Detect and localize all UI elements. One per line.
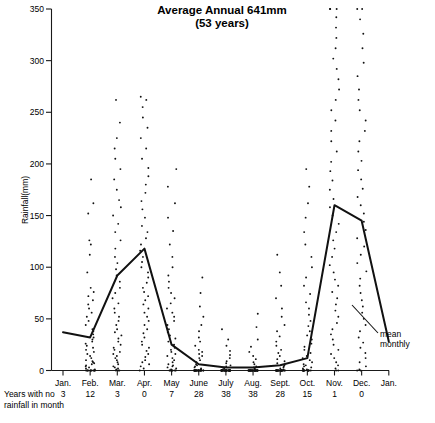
scatter-point <box>309 359 311 361</box>
scatter-point <box>194 370 196 372</box>
scatter-point <box>335 37 337 39</box>
scatter-point <box>86 353 88 355</box>
scatter-point <box>357 151 359 153</box>
scatter-point <box>88 320 90 322</box>
scatter-point <box>225 370 227 372</box>
scatter-point <box>275 341 277 343</box>
y-axis-ticks: 050100150200250300350 <box>30 4 52 376</box>
scatter-point <box>250 346 252 348</box>
x-tick-label: July <box>218 378 234 388</box>
scatter-point <box>199 341 201 343</box>
scatter-point <box>174 338 176 340</box>
scatter-point <box>144 217 146 219</box>
scatter-point <box>361 312 363 314</box>
scatter-point <box>175 367 177 369</box>
scatter-point <box>91 341 93 343</box>
y-tick-label: 100 <box>30 262 44 272</box>
scatter-point <box>170 292 172 294</box>
scatter-point <box>86 370 88 372</box>
scatter-point <box>86 271 88 273</box>
scatter-point <box>90 287 92 289</box>
scatter-point <box>284 360 286 362</box>
scatter-point <box>140 365 142 367</box>
scatter-point <box>365 270 367 272</box>
scatter-point <box>308 308 310 310</box>
scatter-point <box>141 200 143 202</box>
scatter-point <box>330 140 332 142</box>
scatter-point <box>329 170 331 172</box>
x-tick-label: June <box>190 378 209 388</box>
scatter-point <box>363 62 365 64</box>
scatter-point <box>141 158 143 160</box>
footer-value: 38 <box>248 389 258 399</box>
scatter-point <box>167 341 169 343</box>
scatter-point <box>142 106 144 108</box>
scatter-point <box>167 363 169 365</box>
scatter-point <box>118 199 120 201</box>
scatter-point <box>172 364 174 366</box>
scatter-point <box>114 158 116 160</box>
scatter-point <box>116 189 118 191</box>
scatter-point <box>115 369 117 371</box>
scatter-point <box>305 168 307 170</box>
scatter-point <box>114 248 116 250</box>
scatter-point <box>116 328 118 330</box>
scatter-point <box>276 330 278 332</box>
scatter-point <box>275 297 277 299</box>
scatter-point <box>148 320 150 322</box>
x-tick-label: Aug. <box>244 378 262 388</box>
scatter-point <box>198 370 200 372</box>
scatter-point <box>200 367 202 369</box>
scatter-point <box>303 365 305 367</box>
scatter-point <box>337 349 339 351</box>
scatter-point <box>168 287 170 289</box>
scatter-point <box>198 353 200 355</box>
scatter-point <box>174 353 176 355</box>
x-tick-label: Sept. <box>270 378 290 388</box>
scatter-point <box>252 355 254 357</box>
scatter-point <box>145 184 147 186</box>
scatter-point <box>92 299 94 301</box>
scatter-point <box>230 364 232 366</box>
scatter-point <box>88 366 90 368</box>
scatter-point <box>275 345 277 347</box>
scatter-point <box>141 341 143 343</box>
scatter-point <box>141 361 143 363</box>
scatter-point <box>276 370 278 372</box>
y-tick-label: 250 <box>30 107 44 117</box>
scatter-point <box>90 244 92 246</box>
scatter-point <box>92 347 94 349</box>
scatter-point <box>120 239 122 241</box>
scatter-point <box>309 330 311 332</box>
scatter-point <box>171 312 173 314</box>
scatter-point <box>141 261 143 263</box>
scatter-point <box>335 120 337 122</box>
scatter-point <box>194 345 196 347</box>
scatter-point <box>303 349 305 351</box>
scatter-point <box>85 367 87 369</box>
scatter-point <box>329 206 331 208</box>
scatter-point <box>337 364 339 366</box>
scatter-point <box>359 347 361 349</box>
scatter-point <box>89 370 91 372</box>
scatter-point <box>356 262 358 264</box>
scatter-point <box>359 278 361 280</box>
scatter-point <box>337 370 339 372</box>
scatter-point <box>360 292 362 294</box>
footer-value: 28 <box>275 389 285 399</box>
scatter-point <box>201 277 203 279</box>
scatter-point <box>335 47 337 49</box>
scatter-point <box>358 99 360 101</box>
scatter-point <box>360 178 362 180</box>
scatter-point <box>359 361 361 363</box>
scatter-point <box>116 355 118 357</box>
scatter-point <box>363 246 365 248</box>
scatter-point <box>281 316 283 318</box>
scatter-point <box>335 231 337 233</box>
x-axis-labels: Jan.Feb.Mar.Apr.MayJuneJulyAug.Sept.Oct.… <box>55 378 397 388</box>
scatter-point <box>89 254 91 256</box>
scatter-point <box>113 308 115 310</box>
scatter-point <box>335 361 337 363</box>
scatter-point <box>143 332 145 334</box>
scatter-point <box>147 167 149 169</box>
